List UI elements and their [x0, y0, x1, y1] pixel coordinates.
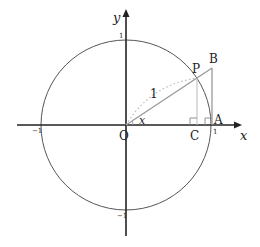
point-C-label: C [190, 129, 199, 143]
tick-x-neg: −1 [32, 127, 42, 135]
point-P-label: P [192, 62, 200, 76]
point-O-label: O [119, 129, 129, 143]
radius-label: 1 [150, 87, 158, 101]
right-angle-C-icon [190, 118, 197, 125]
tick-y-pos: 1 [119, 32, 123, 40]
x-axis-label: x [240, 128, 248, 143]
tick-y-neg: −1 [117, 212, 127, 220]
y-axis-arrow-icon [123, 9, 130, 17]
unit-circle-diagram: y x 1 −1 −1 1 O C A B P 1 x [0, 0, 260, 247]
tick-x-pos: 1 [213, 128, 217, 136]
point-B-label: B [209, 52, 218, 66]
y-axis-label: y [112, 10, 121, 25]
point-A-label: A [213, 113, 223, 127]
angle-label: x [139, 114, 146, 127]
